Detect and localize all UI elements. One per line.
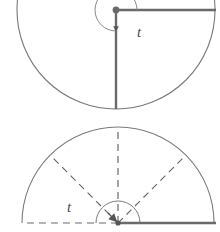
angle-sweep-figure: t t: [0, 0, 220, 232]
upper-vertex-dot: [113, 7, 120, 14]
lower-panel: t: [22, 127, 216, 226]
figure-container: t t: [0, 0, 220, 232]
upper-angle-label: t: [137, 24, 142, 40]
lower-ray-135: [50, 155, 118, 223]
lower-angle-label: t: [67, 199, 72, 215]
lower-ray-45: [118, 155, 186, 223]
upper-panel: t: [17, 0, 216, 109]
lower-vertex-arrow: [108, 213, 116, 221]
lower-vertex-dot: [115, 220, 120, 225]
